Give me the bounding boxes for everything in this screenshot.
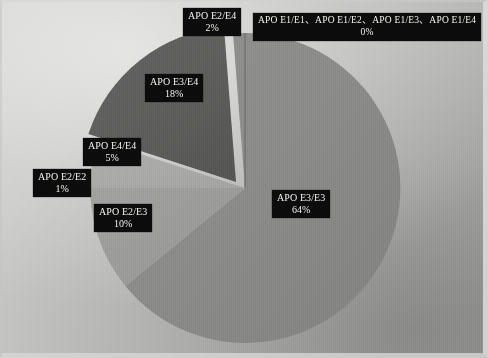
slice-label-e2e4-value: 2% <box>188 22 236 34</box>
slice-label-e2e2-name: APO E2/E2 <box>38 171 86 183</box>
slice-label-e4e4-value: 5% <box>88 152 136 164</box>
slice-label-e4e4-name: APO E4/E4 <box>88 140 136 152</box>
slice-label-e4e4: APO E4/E4 5% <box>83 138 141 166</box>
slice-label-e3e3-name: APO E3/E3 <box>277 192 325 204</box>
slice-label-e3e4: APO E3/E4 18% <box>145 74 203 102</box>
slice-label-e2e2-value: 1% <box>38 183 86 195</box>
slice-label-e1-group-name: APO E1/E1、APO E1/E2、APO E1/E3、APO E1/E4 <box>258 15 476 27</box>
slice-label-e2e4: APO E2/E4 2% <box>183 8 241 36</box>
slice-label-e2e4-name: APO E2/E4 <box>188 10 236 22</box>
slice-label-e2e3: APO E2/E3 10% <box>94 204 152 232</box>
slice-label-e1-group-value: 0% <box>258 27 476 39</box>
slice-label-e3e4-name: APO E3/E4 <box>150 76 198 88</box>
slice-label-e3e3-value: 64% <box>277 204 325 216</box>
slice-label-e1-group: APO E1/E1、APO E1/E2、APO E1/E3、APO E1/E4 … <box>253 13 481 41</box>
slice-label-e3e4-value: 18% <box>150 88 198 100</box>
slice-label-e2e3-name: APO E2/E3 <box>99 206 147 218</box>
slice-label-e2e2: APO E2/E2 1% <box>33 169 91 197</box>
slice-label-e2e3-value: 10% <box>99 218 147 230</box>
slice-label-e3e3: APO E3/E3 64% <box>272 190 330 218</box>
pie-chart-screenshot: APO E2/E4 2% APO E1/E1、APO E1/E2、APO E1/… <box>0 0 488 358</box>
pie-slice-e2e4[interactable] <box>233 33 245 188</box>
